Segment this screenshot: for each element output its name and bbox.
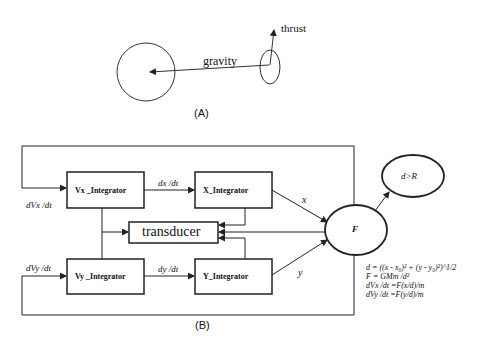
x-to-transducer-arrow	[219, 208, 245, 225]
x-signal-label: x	[302, 195, 306, 205]
bottom-feedback-loop	[22, 255, 354, 315]
force-label: F	[352, 225, 358, 234]
equation-dvx: dVx /dt =F(x/d)/m	[366, 281, 424, 290]
planet-circle	[117, 43, 175, 101]
equation-dvy: dVy /dt =F(y/d)/m	[366, 290, 424, 299]
dvy-dt-label: dVy /dt	[26, 264, 51, 273]
vx-integrator-label: Vx _Integrator	[75, 187, 126, 195]
equation-distance: d = ((x - x₀)² + (y - y₀)²)^1/2	[366, 263, 456, 272]
equation-force: F = GMm /d²	[366, 272, 409, 281]
x-integrator-label: X_Integrator	[203, 187, 248, 195]
force-to-condition-arrow	[375, 192, 389, 211]
spacecraft-ellipse	[260, 50, 280, 84]
y-to-transducer-arrow	[219, 238, 245, 259]
panel-a	[117, 30, 280, 101]
y-integrator-label: Y_Integrator	[203, 273, 248, 281]
dvx-dt-label: dVx /dt	[26, 201, 52, 210]
gravity-label: gravity	[203, 55, 237, 67]
x-signal-arrow	[272, 190, 327, 222]
vy-integrator-label: Vy _Integrator	[75, 273, 126, 281]
thrust-label: thrust	[281, 23, 306, 34]
thrust-arrow	[270, 30, 274, 65]
dy-dt-label: dy /dt	[158, 265, 178, 274]
caption-a: (A)	[194, 108, 209, 119]
dx-dt-label: dx /dt	[158, 179, 178, 188]
transducer-label: transducer	[142, 225, 200, 239]
y-signal-label: y	[298, 268, 302, 278]
caption-b: (B)	[195, 320, 210, 331]
condition-label: d>R	[401, 172, 417, 181]
